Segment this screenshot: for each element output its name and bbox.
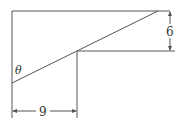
angle-theta-label: θ [15, 64, 22, 77]
arrow-left-icon [12, 109, 17, 113]
dimension-9-label: 9 [39, 105, 47, 119]
geometry-diagram: 6 9 θ [0, 0, 185, 125]
arrow-down-icon [168, 46, 172, 51]
arrow-right-icon [72, 109, 77, 113]
dimension-6: 6 [166, 11, 174, 51]
arrow-up-icon [168, 11, 172, 16]
dimension-6-label: 6 [166, 25, 174, 39]
dimension-9: 9 [12, 105, 77, 119]
diagonal-line [12, 11, 158, 83]
